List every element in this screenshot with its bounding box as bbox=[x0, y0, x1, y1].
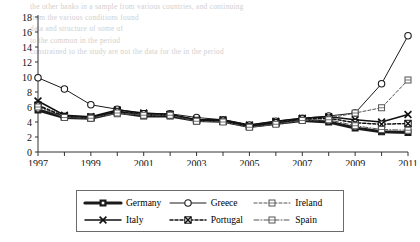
legend-label: Ireland bbox=[295, 198, 322, 208]
chart-figure: the other banks in a sample from various… bbox=[0, 0, 420, 242]
y-tick-label: 12 bbox=[22, 57, 32, 68]
legend-label: Spain bbox=[295, 215, 317, 225]
y-tick-label: 6 bbox=[27, 102, 32, 113]
legend-swatch-greece bbox=[168, 197, 208, 209]
y-tick-label: 18 bbox=[22, 12, 32, 23]
plot-area: 0246810121416181997199920012003200520072… bbox=[0, 0, 420, 166]
data-marker bbox=[35, 75, 41, 81]
legend-label: Germany bbox=[126, 198, 161, 208]
legend-item-ireland[interactable]: Ireland bbox=[252, 197, 337, 209]
chart-legend: GermanyGreeceIrelandItalyPortugalSpain bbox=[76, 190, 344, 232]
x-tick-label: 2009 bbox=[345, 158, 365, 166]
x-tick-label: 2005 bbox=[239, 158, 259, 166]
legend-swatch-germany bbox=[83, 197, 123, 209]
data-marker bbox=[378, 81, 384, 87]
x-tick-label: 2003 bbox=[187, 158, 207, 166]
x-tick-label: 2007 bbox=[292, 158, 312, 166]
x-tick-label: 1999 bbox=[81, 158, 101, 166]
legend-label: Portugal bbox=[211, 215, 243, 225]
data-marker bbox=[61, 86, 67, 92]
legend-item-portugal[interactable]: Portugal bbox=[168, 214, 253, 226]
y-tick-label: 4 bbox=[27, 117, 32, 128]
legend-label: Greece bbox=[211, 198, 238, 208]
data-marker bbox=[184, 200, 190, 206]
y-tick-label: 16 bbox=[22, 27, 32, 38]
legend-swatch-portugal bbox=[168, 214, 208, 226]
data-marker bbox=[88, 102, 94, 108]
legend-item-germany[interactable]: Germany bbox=[83, 197, 168, 209]
legend-label: Italy bbox=[126, 215, 143, 225]
legend-swatch-italy bbox=[83, 214, 123, 226]
legend-item-greece[interactable]: Greece bbox=[168, 197, 253, 209]
legend-item-italy[interactable]: Italy bbox=[83, 214, 168, 226]
y-tick-label: 14 bbox=[22, 42, 32, 53]
legend-item-spain[interactable]: Spain bbox=[252, 214, 337, 226]
y-tick-label: 0 bbox=[27, 147, 32, 158]
y-tick-label: 10 bbox=[22, 72, 32, 83]
line-chart-svg: 0246810121416181997199920012003200520072… bbox=[0, 0, 420, 166]
x-tick-label: 2001 bbox=[134, 158, 154, 166]
data-marker bbox=[405, 33, 411, 39]
data-marker-inner bbox=[102, 202, 105, 205]
y-tick-label: 2 bbox=[27, 132, 32, 143]
y-tick-label: 8 bbox=[27, 87, 32, 98]
x-tick-label: 1997 bbox=[28, 158, 48, 166]
legend-swatch-spain bbox=[252, 214, 292, 226]
x-tick-label: 2011 bbox=[398, 158, 418, 166]
legend-swatch-ireland bbox=[252, 197, 292, 209]
